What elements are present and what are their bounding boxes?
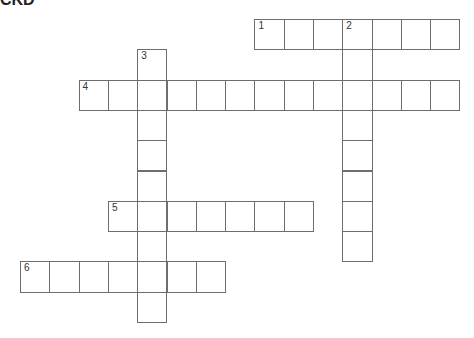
crossword-cell[interactable] [108, 80, 138, 111]
crossword-cell[interactable] [137, 171, 167, 202]
crossword-cell[interactable] [401, 19, 431, 50]
crossword-cell[interactable]: 1 [254, 19, 284, 50]
crossword-cell[interactable] [108, 261, 138, 292]
crossword-cell[interactable] [225, 80, 255, 111]
crossword-cell[interactable] [196, 80, 226, 111]
crossword-cell[interactable] [430, 80, 460, 111]
crossword-cell[interactable] [372, 80, 402, 111]
crossword-cell[interactable] [225, 201, 255, 232]
clue-number: 4 [83, 82, 89, 92]
crossword-cell[interactable] [137, 110, 167, 141]
crossword-cell[interactable] [254, 80, 284, 111]
crossword-cell[interactable] [342, 140, 372, 171]
crossword-cell[interactable] [137, 201, 167, 232]
crossword-cell[interactable] [430, 19, 460, 50]
crossword-cell[interactable] [342, 171, 372, 202]
crossword-cell[interactable] [284, 19, 314, 50]
crossword-cell[interactable] [196, 201, 226, 232]
crossword-cell[interactable] [79, 261, 109, 292]
crossword-cell[interactable] [284, 80, 314, 111]
crossword-cell[interactable] [137, 80, 167, 111]
clue-number: 2 [346, 21, 352, 31]
crossword-cell[interactable]: 6 [20, 261, 50, 292]
crossword-cell[interactable] [49, 261, 79, 292]
crossword-cell[interactable] [137, 140, 167, 171]
crossword-cell[interactable] [342, 231, 372, 262]
crossword-cell[interactable] [137, 292, 167, 323]
crossword-cell[interactable] [137, 231, 167, 262]
crossword-cell[interactable] [137, 261, 167, 292]
crossword-cell[interactable] [167, 261, 197, 292]
crossword-cell[interactable] [372, 19, 402, 50]
crossword-cell[interactable] [167, 201, 197, 232]
crossword-cell[interactable] [342, 49, 372, 80]
crossword-cell[interactable]: 5 [108, 201, 138, 232]
crossword-cell[interactable] [167, 80, 197, 111]
clue-number: 3 [141, 51, 147, 61]
crossword-cell[interactable] [342, 201, 372, 232]
crossword-cell[interactable] [313, 80, 343, 111]
crossword-grid: 123456 [0, 0, 474, 338]
crossword-cell[interactable] [401, 80, 431, 111]
crossword-cell[interactable]: 3 [137, 49, 167, 80]
clue-number: 5 [112, 203, 118, 213]
crossword-cell[interactable]: 2 [342, 19, 372, 50]
crossword-cell[interactable] [196, 261, 226, 292]
crossword-cell[interactable] [254, 201, 284, 232]
crossword-cell[interactable] [313, 19, 343, 50]
crossword-cell[interactable] [342, 110, 372, 141]
clue-number: 1 [258, 21, 264, 31]
clue-number: 6 [24, 263, 30, 273]
crossword-cell[interactable]: 4 [79, 80, 109, 111]
crossword-cell[interactable] [342, 80, 372, 111]
crossword-cell[interactable] [284, 201, 314, 232]
